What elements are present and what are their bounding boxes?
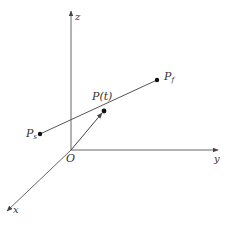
segment-ps-pf [40, 80, 157, 134]
x-axis-label: x [13, 204, 19, 215]
point-ps-label-sub: s [33, 133, 37, 141]
point-ps [38, 132, 42, 136]
point-pf-label: Pf [163, 70, 175, 84]
point-ps-label: Ps [25, 127, 37, 141]
point-pt-label: P(t) [91, 90, 112, 103]
diagram-canvas: z y x O Ps Pf P(t) [0, 0, 237, 227]
y-axis-label: y [213, 153, 220, 164]
z-axis-label: z [74, 11, 81, 22]
x-axis [7, 150, 71, 211]
point-pf [155, 78, 159, 82]
vector-o-pt [71, 113, 102, 150]
origin-label: O [66, 152, 75, 165]
point-pf-label-sub: f [170, 76, 175, 84]
point-pt [102, 109, 107, 114]
